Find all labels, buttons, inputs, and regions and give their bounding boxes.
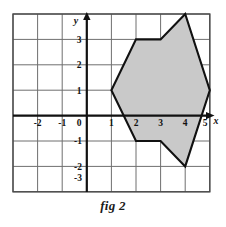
y-tick-label-1: 1 (77, 86, 82, 96)
x-tick-label--1: -1 (58, 118, 66, 128)
y-axis-label: y (73, 15, 79, 26)
y-tick-label--3: -3 (74, 173, 82, 183)
x-tick-label-4: 4 (183, 118, 188, 128)
y-tick-label--1: -1 (74, 136, 82, 146)
figure-caption: fig 2 (0, 198, 226, 214)
x-tick-label-0: 0 (77, 118, 82, 128)
y-tick-label-2: 2 (77, 60, 82, 70)
coordinate-plane-plot: y x -2 -1 0 1 2 3 4 5 3 2 1 -1 -2 -3 (0, 0, 226, 227)
x-tick-label-2: 2 (134, 118, 139, 128)
x-tick-label-5: 5 (203, 118, 208, 128)
x-tick-label-1: 1 (109, 118, 114, 128)
figure-container: y x -2 -1 0 1 2 3 4 5 3 2 1 -1 -2 -3 fig… (0, 0, 226, 227)
y-tick-label-3: 3 (77, 35, 82, 45)
x-axis-label: x (213, 115, 219, 126)
x-tick-label-3: 3 (158, 118, 163, 128)
x-tick-label--2: -2 (34, 118, 42, 128)
y-tick-label--2: -2 (74, 162, 82, 172)
